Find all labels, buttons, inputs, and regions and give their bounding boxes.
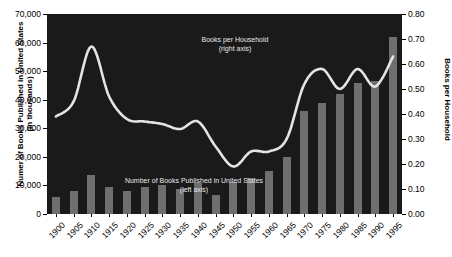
y-axis-left-tickmark-7 — [43, 14, 47, 15]
y-axis-right-tickmark-4 — [402, 114, 406, 115]
x-axis-tickmark-1985 — [358, 214, 359, 217]
annotation-bar-series: Number of Books Published in United Stat… — [109, 177, 279, 194]
y-axis-right-tick-5: 0.50 — [408, 84, 448, 94]
y-axis-right-tickmark-8 — [402, 14, 406, 15]
y-axis-left-tick-3: 30,000 — [1, 123, 41, 133]
y-axis-right-tick-8: 0.80 — [408, 9, 448, 19]
x-axis-tickmark-1940 — [198, 214, 199, 217]
x-axis-tickmark-1965 — [287, 214, 288, 217]
y-axis-right-tick-1: 0.10 — [408, 184, 448, 194]
plot-area: Books per Household (right axis) Number … — [47, 14, 402, 214]
annotation-bar-series-line1: Number of Books Published in United Stat… — [109, 177, 279, 186]
y-axis-right-tickmark-0 — [402, 214, 406, 215]
annotation-bar-series-line2: (left axis) — [109, 186, 279, 195]
x-axis-tickmark-1975 — [322, 214, 323, 217]
x-axis-tickmark-1910 — [91, 214, 92, 217]
x-axis-tickmark-1970 — [304, 214, 305, 217]
x-axis-tickmark-1905 — [74, 214, 75, 217]
x-axis-tickmark-1945 — [216, 214, 217, 217]
y-axis-left-tick-0: 0 — [1, 209, 41, 219]
y-axis-right-tickmark-6 — [402, 64, 406, 65]
y-axis-left-tickmark-6 — [43, 43, 47, 44]
x-axis-tickmark-1955 — [251, 214, 252, 217]
y-axis-right-tickmark-3 — [402, 139, 406, 140]
y-axis-right-tick-7: 0.70 — [408, 34, 448, 44]
x-axis-tickmark-1930 — [162, 214, 163, 217]
x-axis-tickmark-1925 — [145, 214, 146, 217]
y-axis-right-tick-0: 0.00 — [408, 209, 448, 219]
y-axis-left-tickmark-1 — [43, 185, 47, 186]
x-axis-tickmark-1900 — [56, 214, 57, 217]
x-axis-tickmark-1960 — [269, 214, 270, 217]
y-axis-left-tickmark-5 — [43, 71, 47, 72]
y-axis-left-tick-1: 10,000 — [1, 180, 41, 190]
x-axis-tickmark-1915 — [109, 214, 110, 217]
y-axis-right-tickmark-7 — [402, 39, 406, 40]
y-axis-left-tick-5: 50,000 — [1, 66, 41, 76]
y-axis-left-tick-2: 20,000 — [1, 152, 41, 162]
y-axis-right-tick-2: 0.20 — [408, 159, 448, 169]
y-axis-left-tick-6: 60,000 — [1, 38, 41, 48]
books-per-household-line — [56, 47, 393, 167]
y-axis-left-tickmark-3 — [43, 128, 47, 129]
y-axis-right-tick-3: 0.30 — [408, 134, 448, 144]
y-axis-right-tick-6: 0.60 — [408, 59, 448, 69]
x-axis-tickmark-1990 — [375, 214, 376, 217]
annotation-line-series-line2: (right axis) — [175, 45, 295, 54]
y-axis-left-tickmark-2 — [43, 157, 47, 158]
x-axis-tickmark-1920 — [127, 214, 128, 217]
x-axis-tickmark-1980 — [340, 214, 341, 217]
annotation-line-series-line1: Books per Household — [175, 36, 295, 45]
x-axis-tickmark-1950 — [233, 214, 234, 217]
y-axis-left-tick-4: 40,000 — [1, 95, 41, 105]
x-axis-tickmark-1935 — [180, 214, 181, 217]
x-axis-tickmark-1995 — [393, 214, 394, 217]
annotation-line-series: Books per Household (right axis) — [175, 36, 295, 53]
y-axis-left-tick-7: 70,000 — [1, 9, 41, 19]
y-axis-left-tickmark-4 — [43, 100, 47, 101]
y-axis-right-tickmark-5 — [402, 89, 406, 90]
y-axis-left-tickmark-0 — [43, 214, 47, 215]
y-axis-right-tickmark-1 — [402, 189, 406, 190]
y-axis-right-tickmark-2 — [402, 164, 406, 165]
y-axis-right-tick-4: 0.40 — [408, 109, 448, 119]
